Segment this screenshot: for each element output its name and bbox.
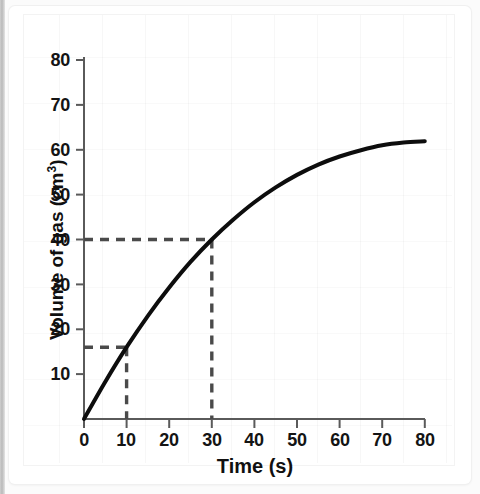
x-tick-label-10: 10 — [106, 430, 146, 451]
x-tick-label-40: 40 — [234, 430, 274, 451]
x-tick-label-60: 60 — [320, 430, 360, 451]
y-axis-title-text: Volume of gas (cm — [46, 172, 67, 340]
x-tick-label-80: 80 — [405, 430, 445, 451]
guide-line-40 — [84, 240, 213, 420]
data-curve-volume-of-gas — [84, 141, 425, 419]
x-axis-ticks — [84, 419, 425, 428]
x-tick-label-50: 50 — [277, 430, 317, 451]
y-axis-title: Volume of gas (cm3) — [45, 159, 68, 340]
y-tick-label-60: 60 — [34, 140, 70, 161]
x-tick-label-20: 20 — [149, 430, 189, 451]
y-tick-label-80: 80 — [34, 50, 70, 71]
y-tick-label-70: 70 — [34, 95, 70, 116]
y-axis-title-exponent: 3 — [45, 166, 59, 173]
plot-canvas — [0, 0, 480, 494]
chart-figure: 80 70 60 50 40 30 20 10 0 10 20 30 40 50… — [0, 0, 480, 494]
y-axis-title-tail: ) — [46, 159, 67, 165]
y-tick-label-10: 10 — [34, 364, 70, 385]
x-tick-label-70: 70 — [362, 430, 402, 451]
y-axis-ticks — [76, 60, 84, 374]
x-tick-label-0: 0 — [64, 430, 104, 451]
x-axis-title: Time (s) — [160, 455, 350, 478]
x-tick-label-30: 30 — [192, 430, 232, 451]
